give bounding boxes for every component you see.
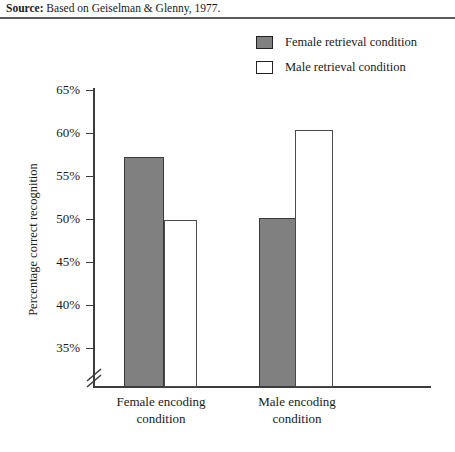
y-tick-mark-40 [86,305,94,306]
y-tick-label-55: 55% [36,169,80,182]
y-tick-label-40: 40% [36,298,80,311]
y-tick-mark-50 [86,219,94,220]
y-axis-title: Percentage correct recognition [26,135,41,345]
y-tick-label-65: 65% [36,83,80,96]
bar-female-encoding-female-retrieval [124,157,164,387]
y-tick-label-50: 50% [36,212,80,225]
bar-chart: 65% 60% 55% 50% 45% 40% 35% Female encod… [0,0,455,452]
x-category-label-male-encoding: Male encoding condition [212,393,382,427]
bar-male-encoding-female-retrieval [259,218,296,387]
y-tick-label-60: 60% [36,126,80,139]
bar-male-encoding-male-retrieval [295,130,333,387]
bar-female-encoding-male-retrieval [164,220,197,387]
y-axis-break-icon [84,362,104,392]
y-tick-mark-60 [86,133,94,134]
y-tick-mark-55 [86,176,94,177]
x-category-line-1: Male encoding [212,393,382,410]
y-tick-label-45: 45% [36,255,80,268]
y-tick-mark-45 [86,262,94,263]
x-category-line-2: condition [212,410,382,427]
y-tick-label-35: 35% [36,341,80,354]
y-tick-mark-65 [86,90,94,91]
y-tick-mark-35 [86,348,94,349]
